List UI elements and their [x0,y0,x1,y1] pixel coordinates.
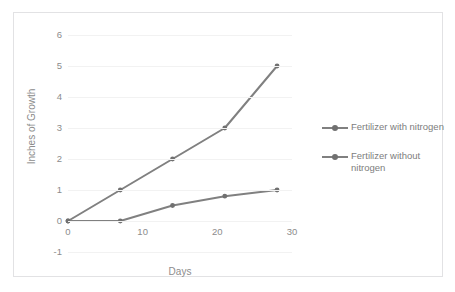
x-tick-label: 10 [137,227,148,237]
chart-frame: Inches of Growth -101234560102030 Days F… [13,12,443,277]
x-tick-label: 20 [212,227,223,237]
y-tick-label: 5 [57,61,62,71]
y-tick-label: 3 [57,123,62,133]
y-tick-label: 0 [57,216,62,226]
y-tick-label: 4 [57,92,62,102]
legend-item-label: Fertilizer with nitrogen [351,121,454,133]
legend-item-1[interactable]: Fertilizer without nitrogen [322,150,454,174]
series-line-0 [68,66,277,221]
y-tick-label: -1 [54,247,62,257]
gridline [68,35,292,36]
gridline [68,66,292,67]
y-axis-title: Inches of Growth [26,89,37,165]
series-plot [68,35,292,252]
chart-legend: Fertilizer with nitrogen Fertilizer with… [322,121,454,190]
gridline [68,221,292,222]
x-tick-label: 0 [65,227,70,237]
x-axis-title: Days [68,266,292,277]
x-tick-label: 30 [287,227,298,237]
y-tick-label: 2 [57,154,62,164]
gridline [68,252,292,253]
legend-item-0[interactable]: Fertilizer with nitrogen [322,121,454,134]
gridline [68,159,292,160]
data-point [222,194,227,199]
plot-area: -101234560102030 [68,35,292,252]
gridline [68,190,292,191]
gridline [68,128,292,129]
y-tick-label: 6 [57,30,62,40]
legend-marker-icon [322,151,348,163]
data-point [170,203,175,208]
legend-marker-icon [322,122,348,134]
gridline [68,97,292,98]
legend-item-label: Fertilizer without nitrogen [351,150,454,174]
y-tick-label: 1 [57,185,62,195]
